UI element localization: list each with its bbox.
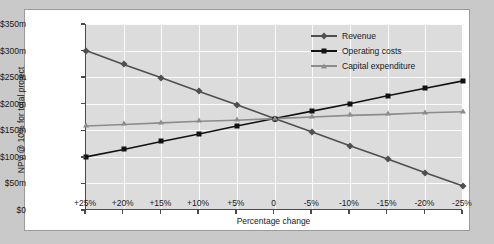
data-point-marker xyxy=(347,101,352,106)
legend-marker-diamond-icon xyxy=(320,32,327,39)
legend-label: Operating costs xyxy=(342,46,402,56)
y-axis-tick-label: $50m xyxy=(0,178,26,188)
data-point-marker xyxy=(197,132,202,137)
data-point-marker xyxy=(234,124,239,129)
data-point-marker xyxy=(83,123,89,128)
x-axis-tick-mark xyxy=(424,210,426,214)
x-axis-tick-mark xyxy=(386,210,388,214)
data-point-marker xyxy=(385,93,390,98)
x-axis-tick-mark xyxy=(122,210,124,214)
y-axis-tick-mark xyxy=(81,23,85,25)
y-axis-tick-mark xyxy=(81,76,85,78)
legend-label: Capital expenditure xyxy=(342,61,415,71)
y-axis-tick-label: $300m xyxy=(0,46,26,56)
data-point-marker xyxy=(385,111,391,116)
legend-swatch xyxy=(311,61,337,71)
data-point-marker xyxy=(196,118,202,123)
data-point-marker xyxy=(121,147,126,152)
data-point-marker xyxy=(423,86,428,91)
legend-label: Revenue xyxy=(342,31,376,41)
y-axis-tick-label: $200m xyxy=(0,99,26,109)
y-axis-tick-mark xyxy=(81,130,85,132)
y-axis-tick-label: $0 xyxy=(0,205,26,215)
chart-legend: RevenueOperating costsCapital expenditur… xyxy=(311,28,415,73)
legend-item: Operating costs xyxy=(311,43,415,58)
data-point-marker xyxy=(347,112,353,117)
y-axis-tick-mark xyxy=(81,50,85,52)
legend-swatch xyxy=(311,46,337,56)
data-point-marker xyxy=(158,119,164,124)
gridline-vertical xyxy=(463,24,464,209)
x-axis-tick-mark xyxy=(160,210,162,214)
y-axis-tick-label: $100m xyxy=(0,152,26,162)
y-axis-tick-mark xyxy=(81,103,85,105)
data-point-marker xyxy=(461,78,466,83)
data-point-marker xyxy=(460,108,466,113)
data-point-marker xyxy=(121,121,127,126)
y-axis-tick-mark xyxy=(81,183,85,185)
data-point-marker xyxy=(234,117,240,122)
legend-item: Revenue xyxy=(311,28,415,43)
x-axis-tick-mark xyxy=(348,210,350,214)
x-axis-tick-mark xyxy=(310,210,312,214)
x-axis-title: Percentage change xyxy=(85,216,462,226)
chart-figure: NPV @ 10% for total project $0$50m$100m$… xyxy=(24,9,470,231)
x-axis-tick-mark xyxy=(84,210,86,214)
data-point-marker xyxy=(422,109,428,114)
x-axis-tick-mark xyxy=(461,210,463,214)
legend-marker-triangle-icon xyxy=(321,63,327,68)
x-axis-tick-label: -25% xyxy=(439,198,485,208)
legend-swatch xyxy=(311,31,337,41)
x-axis-tick-mark xyxy=(273,210,275,214)
y-axis-tick-label: $150m xyxy=(0,125,26,135)
y-axis-tick-label: $250m xyxy=(0,72,26,82)
data-point-marker xyxy=(309,114,315,119)
legend-item: Capital expenditure xyxy=(311,58,415,73)
x-axis-tick-mark xyxy=(235,210,237,214)
y-axis-tick-mark xyxy=(81,156,85,158)
legend-marker-square-icon xyxy=(322,48,327,53)
data-point-marker xyxy=(159,139,164,144)
y-axis-tick-label: $350m xyxy=(0,19,26,29)
data-point-marker xyxy=(272,115,278,120)
x-axis-tick-mark xyxy=(197,210,199,214)
